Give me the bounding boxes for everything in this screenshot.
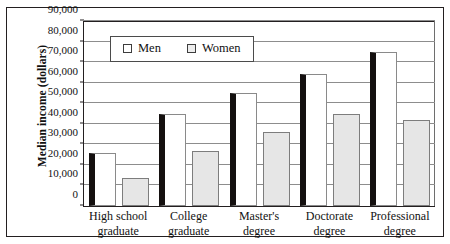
bar-men — [89, 153, 116, 206]
y-tick-label: 40,000 — [48, 106, 78, 118]
bar-men — [370, 52, 397, 206]
y-tick-label: 90,000 — [48, 3, 78, 15]
bar-group — [365, 21, 435, 206]
plot-area: 010,00020,00030,00040,00050,00060,00070,… — [83, 21, 435, 207]
y-axis-title: Median income (dollars) — [36, 21, 48, 191]
y-tick-label: 70,000 — [48, 44, 78, 56]
y-tick-label: 10,000 — [48, 167, 78, 179]
figure-container: Median income (dollars) 010,00020,00030,… — [0, 0, 450, 244]
bar-men — [230, 93, 257, 206]
legend-item-women: Women — [187, 41, 241, 56]
x-axis-label: Professionaldegree — [365, 209, 435, 238]
bar-women — [192, 151, 219, 207]
x-axis-labels: High schoolgraduateCollegegraduateMaster… — [83, 209, 435, 238]
legend-label-women: Women — [202, 41, 241, 56]
bar-men — [159, 114, 186, 207]
bar-women — [263, 132, 290, 206]
y-tick-label: 80,000 — [48, 24, 78, 36]
x-axis-label: Doctoratedegree — [294, 209, 364, 238]
bar-women — [333, 114, 360, 207]
legend-label-men: Men — [138, 41, 161, 56]
y-tick-label: 20,000 — [48, 147, 78, 159]
bar-group — [295, 21, 365, 206]
chart-legend: Men Women — [110, 36, 254, 62]
x-axis-label: Master'sdegree — [224, 209, 294, 238]
bar-women — [403, 120, 430, 206]
legend-swatch-women-icon — [187, 44, 196, 53]
bar-women — [122, 178, 149, 206]
bar-men — [300, 74, 327, 206]
legend-item-men: Men — [123, 41, 161, 56]
legend-swatch-men-icon — [123, 44, 132, 53]
y-tick-label: 50,000 — [48, 85, 78, 97]
y-tick-label: 0 — [73, 188, 79, 200]
y-tick-label: 60,000 — [48, 65, 78, 77]
x-axis-label: Collegegraduate — [153, 209, 223, 238]
chart-frame: Median income (dollars) 010,00020,00030,… — [6, 7, 444, 237]
x-axis-label: High schoolgraduate — [83, 209, 153, 238]
y-tick-label: 30,000 — [48, 126, 78, 138]
